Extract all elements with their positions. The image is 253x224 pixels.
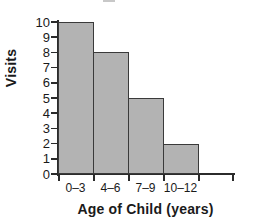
y-axis-title: Visits (1, 33, 21, 103)
y-axis-tick-mark (51, 97, 58, 99)
x-axis-tick-mark (128, 174, 130, 181)
x-axis-tick-label: 7–9 (128, 182, 163, 195)
y-axis-tick-mark (51, 143, 58, 145)
y-axis-tick-label: 1 (26, 152, 50, 165)
bar (128, 98, 164, 174)
bar (163, 144, 199, 174)
bar (93, 52, 129, 174)
x-axis-tick-mark (58, 174, 60, 181)
y-axis-tick-label: 4 (26, 107, 50, 120)
y-axis-tick-mark (51, 52, 58, 54)
y-axis-tick-mark (51, 21, 58, 23)
x-axis-tick-mark (198, 174, 200, 181)
plot-area (58, 22, 198, 174)
x-axis-tick-label: 4–6 (93, 182, 128, 195)
y-axis-tick-label: 0 (26, 168, 50, 181)
x-axis-title: Age of Child (years) (0, 201, 253, 217)
y-axis-tick-mark (51, 67, 58, 69)
y-axis-tick-label: 5 (26, 92, 50, 105)
y-axis-tick-label: 8 (26, 46, 50, 59)
bar-chart: Visits 012345678910 Age of Child (years)… (0, 0, 253, 224)
bar (58, 22, 94, 174)
y-axis-tick-label: 6 (26, 76, 50, 89)
cropped-title-artifact (103, 0, 115, 2)
y-axis-tick-mark (51, 112, 58, 114)
x-axis-tick-mark (163, 174, 165, 181)
y-axis-tick-label: 2 (26, 137, 50, 150)
y-axis-tick-labels: 012345678910 (26, 0, 50, 224)
y-axis-tick-label: 9 (26, 31, 50, 44)
y-axis-tick-label: 7 (26, 61, 50, 74)
y-axis-tick-mark (51, 173, 58, 175)
y-axis-tick-mark (51, 36, 58, 38)
y-axis-tick-label: 3 (26, 122, 50, 135)
x-axis-tick-label: 10–12 (163, 182, 198, 195)
y-axis-tick-label: 10 (26, 16, 50, 29)
y-axis-tick-mark (51, 128, 58, 130)
y-axis-tick-mark (51, 158, 58, 160)
y-axis-tick-mark (51, 82, 58, 84)
x-axis-tick-label: 0–3 (58, 182, 93, 195)
x-axis-tick-mark (93, 174, 95, 181)
x-axis-extra-tick-mark (232, 174, 234, 181)
